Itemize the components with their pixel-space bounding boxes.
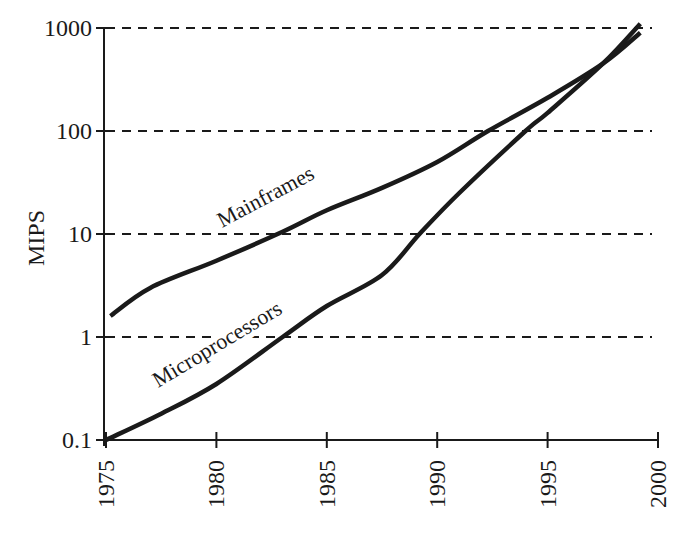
x-tick-label: 1980 — [203, 460, 229, 508]
series-label-microprocessors: Microprocessors — [148, 295, 287, 392]
y-tick-label: 0.1 — [62, 427, 92, 453]
x-tick-label: 2000 — [645, 460, 671, 508]
y-ticks: 0.11101001000 — [44, 15, 110, 453]
y-tick-label: 1000 — [44, 15, 92, 41]
series-line-mainframes — [110, 33, 640, 316]
series-line-microprocessors — [106, 24, 640, 440]
x-tick-label: 1985 — [314, 460, 340, 508]
x-ticks: 197519801985199019952000 — [93, 432, 671, 508]
gridlines — [106, 28, 652, 337]
y-tick-label: 10 — [68, 221, 92, 247]
chart-canvas: 0.11101001000 197519801985199019952000 M… — [0, 0, 682, 544]
x-tick-label: 1975 — [93, 460, 119, 508]
series-lines — [106, 24, 640, 440]
y-tick-label: 100 — [56, 118, 92, 144]
chart: 0.11101001000 197519801985199019952000 M… — [0, 0, 682, 544]
series-label-microprocessors-group: Microprocessors — [148, 295, 287, 392]
y-tick-label: 1 — [80, 324, 92, 350]
x-tick-label: 1990 — [424, 460, 450, 508]
x-tick-label: 1995 — [535, 460, 561, 508]
y-axis-title: MIPS — [23, 210, 49, 266]
